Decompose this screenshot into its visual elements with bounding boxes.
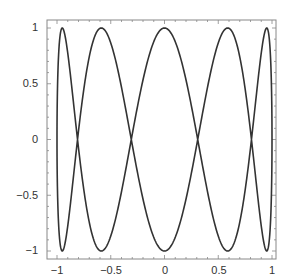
y-tick-label: 1 (32, 21, 38, 33)
x-tick-label: −1 (51, 264, 64, 276)
y-tick-label: 0 (32, 133, 38, 145)
y-tick-label: −0.5 (16, 189, 38, 201)
y-tick-label: −1 (25, 244, 38, 256)
tick-marks (47, 20, 276, 259)
y-tick-label: 0.5 (23, 77, 38, 89)
x-tick-label: 0.5 (211, 264, 226, 276)
plot-frame (47, 20, 276, 259)
x-tick-label: 1 (269, 264, 275, 276)
x-tick-label: −0.5 (100, 264, 122, 276)
lissajous-chart: 1 0.5 0 −0.5 −1 −1 −0.5 0 0.5 1 (0, 0, 289, 279)
x-tick-label: 0 (162, 264, 168, 276)
lissajous-curve (57, 28, 272, 251)
